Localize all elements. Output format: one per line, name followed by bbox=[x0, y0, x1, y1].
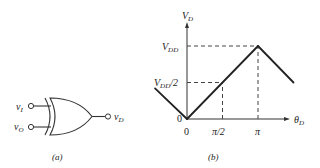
caption-b: (b) bbox=[208, 152, 219, 162]
caption-a: (a) bbox=[52, 152, 63, 162]
output-terminal-vd bbox=[105, 114, 110, 119]
x-tick-pi-half: π/2 bbox=[212, 126, 225, 137]
input-label-vo: vO bbox=[14, 121, 24, 134]
gate-body bbox=[50, 98, 92, 135]
y-tick-zero: 0 bbox=[177, 113, 182, 124]
input-terminal-vo bbox=[28, 124, 33, 129]
xor-gate-figure: vI vO vD (a) bbox=[14, 98, 124, 162]
figure: vI vO vD (a) VD θD VDD VDD/2 0 bbox=[0, 0, 320, 168]
curve-segment bbox=[155, 88, 187, 119]
x-axis-label: θD bbox=[294, 114, 304, 127]
phase-characteristic-plot: VD θD VDD VDD/2 0 0 π/2 π (b) bbox=[154, 10, 304, 162]
xor-input-arc bbox=[45, 98, 50, 135]
y-tick-vdd-half: VDD/2 bbox=[154, 77, 178, 90]
y-axis-label: VD bbox=[182, 10, 193, 23]
x-tick-pi: π bbox=[255, 126, 261, 137]
output-label-vd: vD bbox=[114, 111, 124, 124]
y-tick-vdd: VDD bbox=[162, 41, 178, 54]
x-axis-arrow bbox=[284, 117, 290, 121]
x-tick-zero: 0 bbox=[184, 126, 189, 137]
curve-segment bbox=[258, 46, 294, 83]
input-label-vi: vI bbox=[16, 101, 23, 114]
input-terminal-vi bbox=[28, 103, 33, 108]
